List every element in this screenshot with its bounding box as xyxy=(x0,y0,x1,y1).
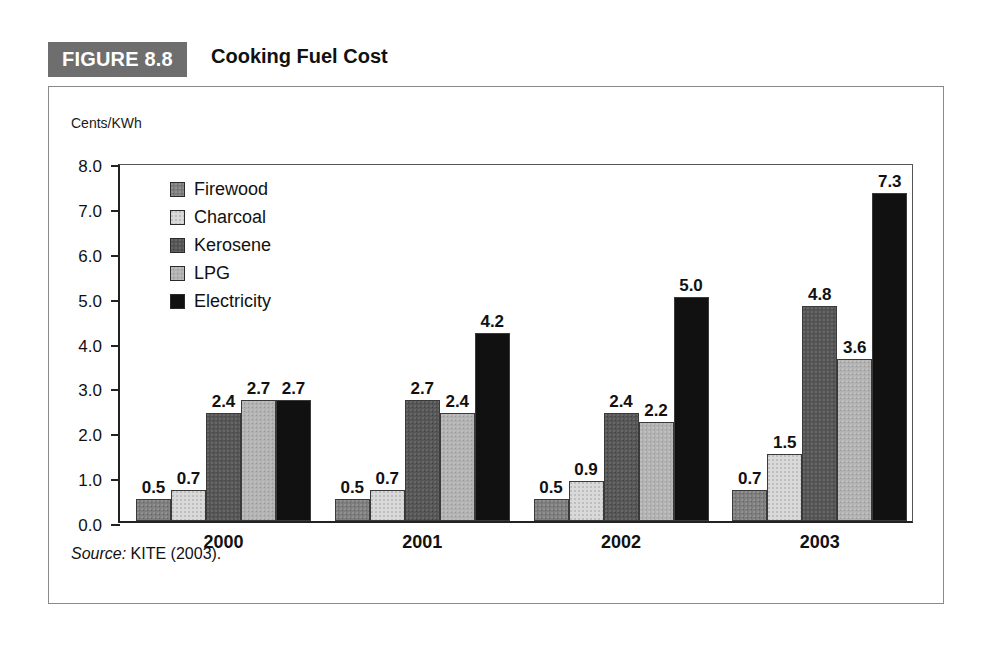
bar-electricity-2001 xyxy=(475,333,510,521)
legend-swatch-icon xyxy=(170,294,185,309)
bar-value-label: 0.5 xyxy=(340,478,364,498)
bar-value-label: 7.3 xyxy=(878,172,902,192)
plot-area: 8.07.06.05.04.03.02.01.00.0 0.50.72.42.7… xyxy=(118,164,913,523)
bar-kerosene-2000 xyxy=(206,413,241,521)
legend-item-electricity: Electricity xyxy=(170,287,271,315)
bar-value-label: 2.7 xyxy=(410,379,434,399)
x-axis-tick-label-2002: 2002 xyxy=(601,532,641,553)
bar-lpg-2000 xyxy=(241,400,276,521)
source-note: Source: KITE (2003). xyxy=(71,545,221,563)
y-axis-tick: 2.0 xyxy=(111,434,120,436)
legend-item-charcoal: Charcoal xyxy=(170,203,271,231)
legend-label: Firewood xyxy=(194,179,268,200)
legend-label: Charcoal xyxy=(194,207,266,228)
y-axis-tick-label: 3.0 xyxy=(78,381,102,401)
bar-value-label: 4.2 xyxy=(480,312,504,332)
figure-body-box: Cents/KWh 8.07.06.05.04.03.02.01.00.0 0.… xyxy=(48,86,944,604)
legend-label: LPG xyxy=(194,263,230,284)
y-axis-tick-label: 5.0 xyxy=(78,292,102,312)
legend-label: Electricity xyxy=(194,291,271,312)
source-text: KITE (2003). xyxy=(131,545,222,562)
bar-electricity-2002 xyxy=(674,297,709,521)
bar-charcoal-2002 xyxy=(569,481,604,521)
legend-swatch-icon xyxy=(170,210,185,225)
bar-value-label: 0.5 xyxy=(539,478,563,498)
x-axis-tick-label-2001: 2001 xyxy=(402,532,442,553)
y-axis-title: Cents/KWh xyxy=(71,115,142,131)
bar-value-label: 0.7 xyxy=(177,469,201,489)
bar-value-label: 2.4 xyxy=(212,392,236,412)
bar-value-label: 1.5 xyxy=(773,433,797,453)
bar-firewood-2001 xyxy=(335,499,370,521)
bar-kerosene-2001 xyxy=(405,400,440,521)
bar-value-label: 3.6 xyxy=(843,338,867,358)
y-axis-tick-label: 0.0 xyxy=(78,516,102,536)
chart-legend: FirewoodCharcoalKeroseneLPGElectricity xyxy=(170,175,271,315)
bar-charcoal-2003 xyxy=(767,454,802,521)
bar-value-label: 5.0 xyxy=(679,276,703,296)
figure-container: FIGURE 8.8 Cooking Fuel Cost Cents/KWh 8… xyxy=(0,0,991,648)
legend-swatch-icon xyxy=(170,266,185,281)
y-axis-tick-label: 7.0 xyxy=(78,202,102,222)
bar-electricity-2000 xyxy=(276,400,311,521)
figure-number-badge: FIGURE 8.8 xyxy=(48,42,187,77)
figure-number-label: FIGURE 8.8 xyxy=(62,48,173,71)
legend-item-kerosene: Kerosene xyxy=(170,231,271,259)
legend-label: Kerosene xyxy=(194,235,271,256)
y-axis-tick: 4.0 xyxy=(111,345,120,347)
bar-kerosene-2002 xyxy=(604,413,639,521)
bar-value-label: 2.7 xyxy=(247,379,271,399)
bar-value-label: 2.4 xyxy=(445,392,469,412)
bar-value-label: 0.7 xyxy=(375,469,399,489)
y-axis-tick: 7.0 xyxy=(111,210,120,212)
figure-header: FIGURE 8.8 Cooking Fuel Cost xyxy=(48,42,945,80)
bar-charcoal-2001 xyxy=(370,490,405,521)
y-axis-tick-label: 1.0 xyxy=(78,471,102,491)
y-axis-tick: 3.0 xyxy=(111,389,120,391)
bar-lpg-2003 xyxy=(837,359,872,521)
x-axis-tick-label-2003: 2003 xyxy=(800,532,840,553)
legend-item-firewood: Firewood xyxy=(170,175,271,203)
y-axis-tick-label: 4.0 xyxy=(78,337,102,357)
bar-firewood-2003 xyxy=(732,490,767,521)
legend-swatch-icon xyxy=(170,238,185,253)
bar-value-label: 4.8 xyxy=(808,285,832,305)
y-axis-tick: 6.0 xyxy=(111,255,120,257)
bar-value-label: 0.5 xyxy=(142,478,166,498)
bar-firewood-2000 xyxy=(136,499,171,521)
legend-swatch-icon xyxy=(170,182,185,197)
bar-value-label: 2.4 xyxy=(609,392,633,412)
bar-firewood-2002 xyxy=(534,499,569,521)
bar-lpg-2002 xyxy=(639,422,674,521)
legend-item-lpg: LPG xyxy=(170,259,271,287)
y-axis-tick: 8.0 xyxy=(111,165,120,167)
source-prefix: Source: xyxy=(71,545,126,562)
bar-value-label: 0.9 xyxy=(574,460,598,480)
bar-electricity-2003 xyxy=(872,193,907,521)
bar-charcoal-2000 xyxy=(171,490,206,521)
y-axis-tick: 5.0 xyxy=(111,300,120,302)
y-axis-tick-label: 6.0 xyxy=(78,247,102,267)
figure-title: Cooking Fuel Cost xyxy=(211,45,388,68)
bar-kerosene-2003 xyxy=(802,306,837,521)
bar-lpg-2001 xyxy=(440,413,475,521)
y-axis-tick: 0.0 xyxy=(111,524,120,526)
y-axis-tick: 1.0 xyxy=(111,479,120,481)
y-axis-tick-label: 2.0 xyxy=(78,426,102,446)
bar-value-label: 2.2 xyxy=(644,401,668,421)
bar-value-label: 0.7 xyxy=(738,469,762,489)
y-axis-tick-label: 8.0 xyxy=(78,157,102,177)
bar-value-label: 2.7 xyxy=(282,379,306,399)
